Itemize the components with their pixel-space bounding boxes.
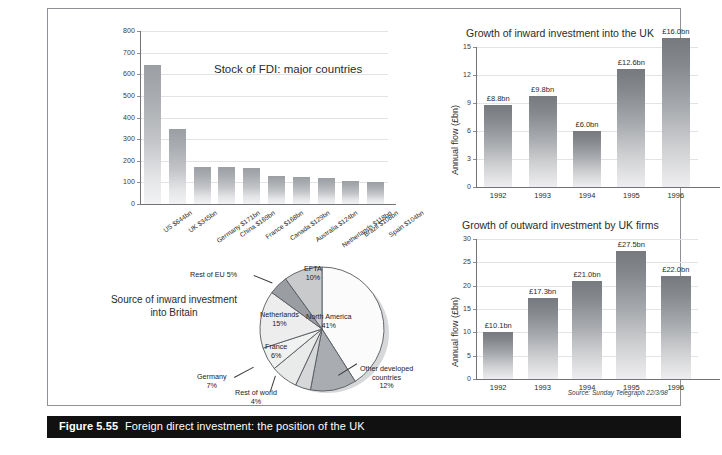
y-axis-tick-label: 6 — [445, 127, 471, 135]
bar-value-label: £16.0bn — [646, 27, 706, 36]
y-axis-tick-label: 400 — [109, 114, 135, 122]
bar-value-label: £27.5bn — [601, 240, 661, 249]
y-axis-tick-label: 800 — [109, 27, 135, 35]
bar — [218, 167, 235, 204]
bar — [318, 178, 335, 204]
y-axis-tick-label: 300 — [109, 135, 135, 143]
chart3-title: Growth of outward investment by UK firms — [462, 219, 659, 231]
bar — [342, 181, 359, 204]
bar — [661, 276, 691, 379]
pie-slice-label: Germany7% — [197, 373, 227, 390]
source-attribution: Source: Sunday Telegraph 22/3/98 — [568, 389, 668, 396]
y-axis-tick-label: 15 — [445, 43, 471, 51]
x-axis-category-label: 1996 — [651, 191, 701, 200]
bar — [144, 65, 161, 204]
pie-slice-label: EFTA10% — [304, 265, 322, 282]
y-axis-line — [476, 239, 477, 380]
bar-value-label: £6.0bn — [557, 120, 617, 129]
figure-caption-bar: Figure 5.55 Foreign direct investment: t… — [47, 416, 681, 438]
chart2-title: Growth of inward investment into the UK — [466, 27, 654, 39]
x-axis-category-label: 1992 — [473, 383, 523, 392]
bar-value-label: £8.8bn — [468, 94, 528, 103]
y-axis-tick-label: 0 — [445, 183, 471, 191]
bar-value-label: £21.0bn — [557, 270, 617, 279]
pie-slice-label: Rest of EU 5% — [190, 271, 237, 280]
pie-slice-label-line: 41% — [306, 322, 352, 331]
figure-caption-text: Foreign direct investment: the position … — [125, 420, 365, 432]
pie-slice-label: France6% — [265, 343, 287, 360]
figure-number: Figure 5.55 — [59, 420, 118, 432]
y-axis-tick-label: 30 — [445, 235, 471, 243]
pie-slice-label-line: 10% — [304, 274, 322, 283]
bar-value-label: £9.8bn — [513, 85, 573, 94]
bar — [268, 176, 285, 204]
x-axis-category-label: 1995 — [606, 191, 656, 200]
bar — [243, 168, 260, 204]
bar — [169, 129, 186, 204]
chart3-plot-area: 051015202530£10.1bn1992£17.3bn1993£21.0b… — [476, 239, 698, 379]
bar — [529, 96, 557, 187]
bar — [616, 251, 646, 379]
bar — [617, 69, 645, 187]
bar — [662, 38, 690, 187]
y-axis-tick-label: 5 — [445, 352, 471, 360]
x-axis-line — [476, 187, 720, 188]
pie-leader-line — [234, 367, 254, 378]
pie-slice-label-line: 7% — [197, 382, 227, 391]
bar — [484, 105, 512, 187]
chart-outward-investment: Growth of outward investment by UK firms… — [440, 217, 722, 407]
bar — [528, 298, 558, 379]
y-axis-tick-label: 10 — [445, 328, 471, 336]
y-axis-tick-label: 0 — [109, 200, 135, 208]
y-axis-tick-label: 700 — [109, 49, 135, 57]
x-axis-category-label: 1993 — [518, 191, 568, 200]
pie-slice-label-line: 4% — [235, 398, 277, 407]
y-axis-tick-label: 100 — [109, 178, 135, 186]
chart-inward-investment: Growth of inward investment into the UK … — [440, 25, 722, 215]
pie-slice-label-line: 15% — [260, 320, 299, 329]
y-axis-tick-label: 15 — [445, 305, 471, 313]
y-axis-line — [140, 31, 141, 205]
pie-title: Source of inward investment into Britain — [108, 293, 240, 319]
chart2-plot-area: 03691215£8.8bn1992£9.8bn1993£6.0bn1994£1… — [476, 47, 698, 187]
gridline — [140, 31, 388, 32]
chart2-y-axis-label: Annual flow (£bn) — [450, 105, 460, 175]
gridline — [476, 262, 698, 263]
gridline — [140, 118, 388, 119]
pie-slice-label: Rest of world4% — [235, 389, 277, 406]
bar-value-label: £12.6bn — [601, 58, 661, 67]
chart-stock-of-fdi: Stock of FDI: major countries 0100200300… — [102, 23, 402, 249]
x-axis-category-label: 1993 — [518, 383, 568, 392]
x-axis-line — [140, 204, 396, 205]
y-axis-tick-label: 500 — [109, 92, 135, 100]
y-axis-tick-label: 12 — [445, 71, 471, 79]
bar — [483, 332, 513, 379]
y-axis-tick-label: 600 — [109, 70, 135, 78]
bar-value-label: £22.0bn — [646, 265, 706, 274]
chart1-plot-area: 0100200300400500600700800US $644bnUK $34… — [140, 31, 388, 204]
pie-slice-label-line: 6% — [265, 352, 287, 361]
y-axis-tick-label: 25 — [445, 258, 471, 266]
x-axis-category-label: 1992 — [473, 191, 523, 200]
gridline — [140, 74, 388, 75]
bar — [293, 177, 310, 204]
pie-slice-label: Netherlands15% — [260, 311, 299, 328]
x-axis-line — [476, 379, 720, 380]
bar — [194, 167, 211, 204]
chart-source-of-inward-investment: Source of inward investment into Britain… — [102, 253, 422, 413]
figure-artwork-frame: Stock of FDI: major countries 0100200300… — [47, 8, 681, 406]
x-axis-category-label: 1994 — [562, 191, 612, 200]
y-axis-line — [476, 47, 477, 188]
y-axis-tick-label: 9 — [445, 99, 471, 107]
pie-slice-label: North America41% — [306, 313, 352, 330]
bar-value-label: £10.1bn — [468, 321, 528, 330]
y-axis-tick-label: 20 — [445, 282, 471, 290]
pie-slice-label-line: Rest of EU 5% — [190, 271, 237, 280]
bar — [367, 182, 384, 204]
gridline — [140, 53, 388, 54]
gridline — [476, 239, 698, 240]
bar — [573, 131, 601, 187]
bar — [572, 281, 602, 379]
y-axis-tick-label: 3 — [445, 155, 471, 163]
